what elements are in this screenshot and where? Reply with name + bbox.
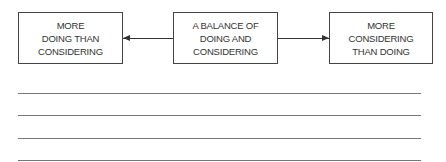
- writing-line-1: [18, 93, 421, 94]
- writing-line-4: [18, 160, 421, 161]
- box-more-considering: MORE CONSIDERING THAN DOING: [329, 12, 433, 64]
- arrow-left-line: [123, 38, 173, 39]
- box-balance: A BALANCE OF DOING AND CONSIDERING: [173, 12, 278, 64]
- arrow-left-icon: [123, 35, 130, 41]
- box-balance-label: A BALANCE OF DOING AND CONSIDERING: [192, 19, 258, 58]
- writing-line-2: [18, 115, 421, 116]
- arrow-right-icon: [322, 35, 329, 41]
- box-more-doing: MORE DOING THAN CONSIDERING: [18, 12, 123, 64]
- box-more-doing-label: MORE DOING THAN CONSIDERING: [38, 19, 103, 58]
- writing-line-3: [18, 138, 421, 139]
- box-more-considering-label: MORE CONSIDERING THAN DOING: [349, 19, 414, 58]
